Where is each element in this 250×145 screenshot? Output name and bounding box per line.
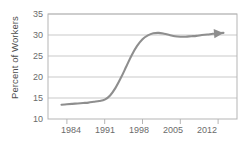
gridlines — [48, 14, 237, 98]
trend-line — [62, 33, 224, 105]
arrowhead-marker — [214, 29, 224, 38]
chart-container: Percent of Workers 35 30 25 20 15 10 198… — [0, 0, 250, 145]
trend-line-series — [62, 29, 224, 105]
x-tick-label: 2012 — [187, 126, 227, 135]
x-axis-tick-labels: 1984 1991 1998 2005 2012 — [0, 126, 250, 140]
x-axis-tick-marks — [67, 119, 218, 124]
plot-area — [0, 0, 250, 145]
